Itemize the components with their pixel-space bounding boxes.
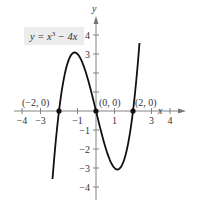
y-axis-arrow-icon [94,16,99,24]
y-tick-label: −2 [79,144,90,155]
y-tick-label: −4 [79,182,90,193]
x-tick-label: 4 [168,115,173,126]
intercept-point [56,108,61,113]
intercept-point [93,108,98,113]
y-tick-label: 4 [85,30,90,41]
y-tick-label: −3 [79,163,90,174]
equation-prefix: y = x [29,31,52,42]
equation-label: y = x3 − 4x [24,27,84,45]
point-label: (−2, 0) [22,97,49,109]
x-axis-label: x [157,105,163,116]
point-label: (0, 0) [99,97,121,109]
x-axis-arrow-icon [178,109,186,114]
y-axis-label: y [91,3,97,14]
cubic-function-graph: −4−3−1134−4−3−2−134 (−2, 0)(0, 0)(2, 0) … [0,0,203,211]
equation-suffix: − 4x [55,31,78,42]
x-tick-label: −3 [35,115,46,126]
y-tick-label: 3 [85,49,90,60]
x-tick-label: 3 [149,115,154,126]
point-label: (2, 0) [135,97,157,109]
x-tick-label: 1 [112,115,117,126]
x-tick-label: −4 [17,115,28,126]
y-tick-label: −1 [79,125,90,136]
intercept-point [130,108,135,113]
